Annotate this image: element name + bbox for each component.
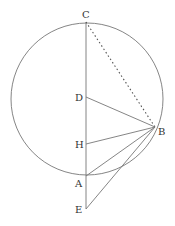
segment-DB	[86, 97, 155, 127]
label-E: E	[75, 204, 82, 215]
label-C: C	[82, 9, 90, 20]
segment-CB-dotted	[86, 22, 155, 127]
label-A: A	[74, 178, 83, 189]
label-B: B	[158, 126, 165, 137]
segment-EB	[86, 127, 155, 209]
circle	[11, 23, 163, 175]
label-H: H	[75, 139, 84, 150]
label-D: D	[75, 92, 83, 103]
geometry-diagram: C D B H A E	[0, 0, 175, 226]
segment-HB	[86, 127, 155, 144]
